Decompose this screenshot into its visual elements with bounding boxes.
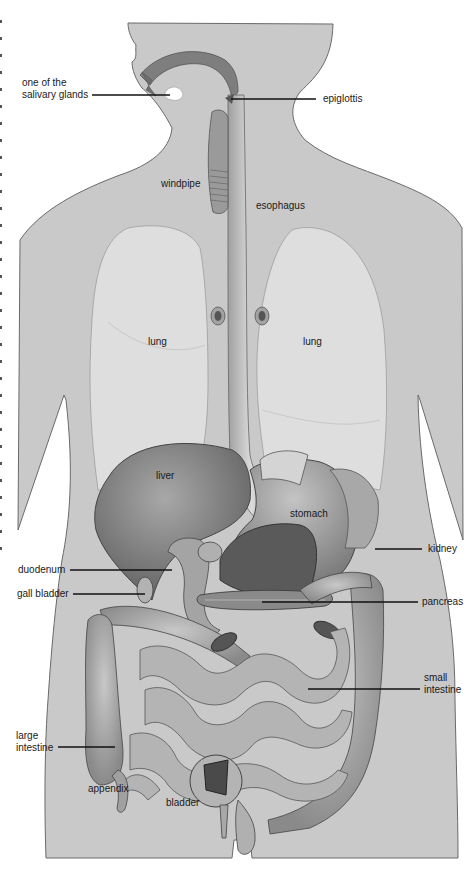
label-salivary-glands: one of the salivary glands	[22, 77, 88, 101]
label-windpipe: windpipe	[161, 178, 200, 190]
label-lung-left: lung	[148, 336, 167, 348]
label-lung-right: lung	[303, 336, 322, 348]
label-stomach: stomach	[290, 508, 328, 520]
anatomy-illustration	[0, 0, 468, 883]
label-salivary-line2: salivary glands	[22, 89, 88, 101]
label-salivary-line1: one of the	[22, 77, 88, 89]
label-esophagus: esophagus	[256, 200, 305, 212]
windpipe-shape	[208, 110, 228, 214]
label-appendix: appendix	[88, 783, 129, 795]
label-small-intestine-line2: intestine	[424, 684, 461, 696]
label-large-intestine-line1: large	[16, 730, 53, 742]
label-bladder: bladder	[166, 797, 199, 809]
label-small-intestine-line1: small	[424, 672, 461, 684]
label-gall-bladder: gall bladder	[17, 588, 69, 600]
label-large-intestine: large intestine	[16, 730, 53, 754]
label-pancreas: pancreas	[422, 596, 463, 608]
label-kidney: kidney	[428, 543, 457, 555]
label-epiglottis: epiglottis	[323, 93, 362, 105]
digestive-system-diagram: one of the salivary glands epiglottis wi…	[0, 0, 468, 883]
gall-bladder-shape	[137, 577, 153, 603]
label-small-intestine: small intestine	[424, 672, 461, 696]
label-duodenum: duodenum	[18, 564, 65, 576]
label-liver: liver	[156, 470, 174, 482]
label-large-intestine-line2: intestine	[16, 742, 53, 754]
